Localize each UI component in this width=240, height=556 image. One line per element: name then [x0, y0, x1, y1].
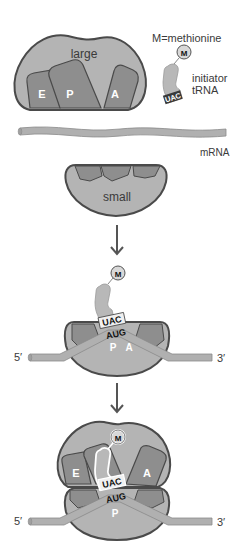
arrow-down-2	[111, 383, 123, 412]
small-subunit-label: small	[103, 190, 131, 204]
p-site-label-3: P	[112, 508, 119, 519]
stage-1-components: large E P A M=methionine M UAC initiator…	[14, 32, 229, 216]
e-site-label: E	[38, 88, 45, 100]
mrna-label: mRNA	[200, 147, 230, 158]
arrow-down-1	[111, 225, 123, 254]
mrna-strand	[18, 127, 226, 137]
initiator-trna-free: UAC	[163, 58, 183, 105]
methionine-key-label: M=methionine	[152, 32, 221, 44]
svg-text:M: M	[181, 49, 188, 58]
a-site-label-3: A	[143, 467, 151, 479]
methionine-symbol-3: M	[115, 434, 122, 443]
translation-initiation-diagram: large E P A M=methionine M UAC initiator…	[0, 0, 240, 556]
stage-2-initiation-complex: 5′ 3′ P A M UAC AUG	[14, 266, 225, 376]
a-site-label: A	[111, 88, 119, 100]
five-prime-label-2: 5′	[14, 351, 22, 363]
e-site-label-3: E	[72, 467, 79, 479]
stage-3-complete-ribosome: E A 5′ 3′ P M UAC AUG	[14, 422, 225, 540]
three-prime-label-3: 3′	[217, 516, 225, 528]
three-prime-label-2: 3′	[217, 352, 225, 364]
p-site-label-2: P	[110, 342, 117, 353]
small-subunit: small	[65, 165, 166, 216]
large-subunit: large E P A	[14, 35, 145, 110]
methionine-symbol-2: M	[115, 270, 122, 279]
p-site-label: P	[66, 88, 73, 100]
a-site-label-2: A	[125, 342, 132, 353]
initiator-label-line1: initiator	[192, 72, 228, 84]
methionine-legend-icon: M	[177, 45, 191, 59]
initiator-label-line2: tRNA	[192, 84, 219, 96]
large-subunit-label: large	[71, 47, 98, 61]
five-prime-label-3: 5′	[14, 515, 22, 527]
